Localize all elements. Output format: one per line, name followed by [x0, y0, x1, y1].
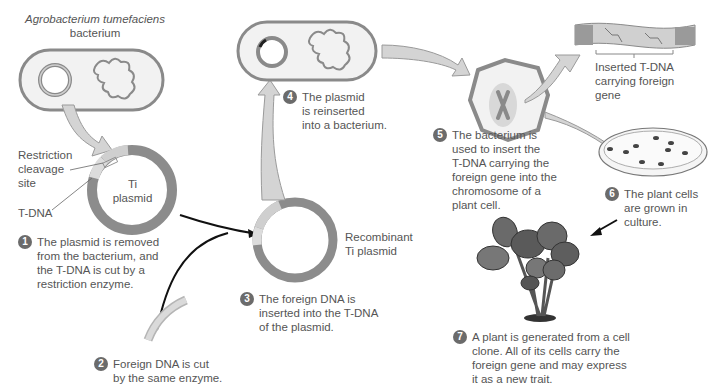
step-2: 2 Foreign DNA is cut by the same enzyme. — [94, 357, 222, 385]
step-4: 4 The plasmid is reinserted into a bacte… — [283, 90, 387, 132]
step-badge: 1 — [18, 235, 32, 249]
inserted-dna-strip — [575, 23, 695, 48]
bacterium-species-label: Agrobacterium tumefaciens — [20, 12, 170, 26]
bacterium-label: bacterium — [20, 26, 170, 40]
step-badge: 3 — [240, 292, 254, 306]
step-text: Foreign DNA is cut by the same enzyme. — [113, 357, 222, 385]
inserted-tdna-label: Inserted T-DNA carrying foreign gene — [595, 60, 674, 102]
arrow-infect — [382, 45, 470, 76]
step-badge: 5 — [433, 128, 447, 142]
step-badge: 7 — [453, 330, 467, 344]
arrow-reinsert — [258, 80, 285, 200]
step-6: 6 The plant cells are grown in culture. — [605, 187, 698, 229]
step-badge: 6 — [605, 187, 619, 201]
step-text: The plant cells are grown in culture. — [624, 187, 698, 229]
restriction-site-label: Restriction cleavage site — [18, 148, 72, 190]
step-text: The foreign DNA is inserted into the T-D… — [259, 292, 378, 334]
bacterium-original — [20, 50, 163, 110]
step-text: A plant is generated from a cell clone. … — [472, 330, 630, 386]
plant — [477, 214, 579, 322]
petri-dish — [599, 128, 707, 176]
step-text: The bacterium is used to insert the T-DN… — [452, 128, 557, 212]
step-3: 3 The foreign DNA is inserted into the T… — [240, 292, 378, 334]
recombinant-plasmid — [257, 202, 333, 278]
step-badge: 2 — [94, 357, 108, 371]
step-5: 5 The bacterium is used to insert the T-… — [433, 128, 557, 212]
step-1: 1 The plasmid is removed from the bacter… — [18, 235, 159, 291]
step-text: The plasmid is removed from the bacteriu… — [37, 235, 159, 291]
step-7: 7 A plant is generated from a cell clone… — [453, 330, 630, 386]
t-dna-label: T-DNA — [18, 206, 53, 220]
recombinant-plasmid-label: Recombinant Ti plasmid — [345, 230, 413, 258]
step-badge: 4 — [283, 90, 297, 104]
bacterium-recombinant — [238, 22, 376, 80]
step-text: The plasmid is reinserted into a bacteri… — [302, 90, 387, 132]
ti-plasmid-label: Ti plasmid — [110, 177, 155, 205]
